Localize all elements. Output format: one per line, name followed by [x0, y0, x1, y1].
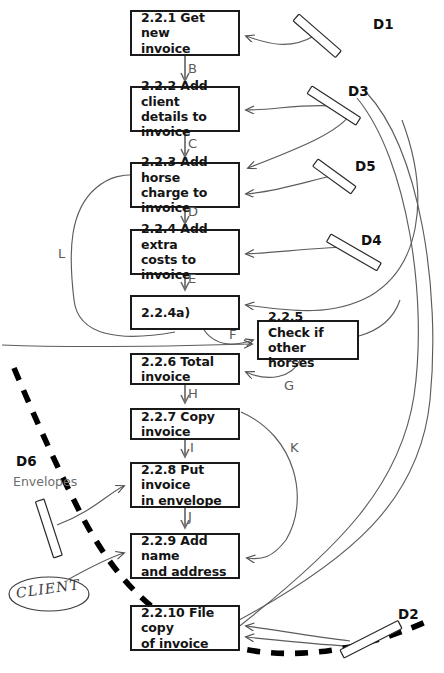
data-store-label-d6: D6: [16, 453, 37, 469]
data-store-label-d5: D5: [355, 158, 376, 174]
data-store-d2-bar[interactable]: [340, 620, 402, 658]
data-store-symbols-layer: [0, 0, 444, 673]
flow-letter-K: K: [290, 440, 299, 455]
flow-letter-E: E: [188, 271, 196, 286]
flowchart-canvas: 2.2.1 Get new invoice 2.2.2 Add client d…: [0, 0, 444, 673]
flow-letter-B: B: [188, 61, 197, 76]
flow-letter-J: J: [188, 509, 192, 524]
data-store-label-d2: D2: [398, 606, 419, 622]
data-store-label-d3: D3: [348, 83, 369, 99]
flow-letter-C: C: [188, 136, 197, 151]
data-store-label-d4: D4: [361, 232, 382, 248]
flow-letter-D: D: [188, 204, 198, 219]
flow-letter-L: L: [58, 246, 65, 261]
flow-letter-F: F: [229, 327, 236, 342]
data-store-d1-bar[interactable]: [293, 14, 341, 58]
data-store-label-d1: D1: [373, 16, 394, 32]
data-store-d6-bar[interactable]: [35, 499, 62, 558]
flow-letter-I: I: [190, 440, 194, 455]
flow-letter-G: G: [284, 378, 294, 393]
data-store-d5-bar[interactable]: [313, 159, 356, 194]
data-store-sublabel-envelopes: Envelopes: [13, 474, 77, 489]
flow-letter-H: H: [188, 386, 198, 401]
